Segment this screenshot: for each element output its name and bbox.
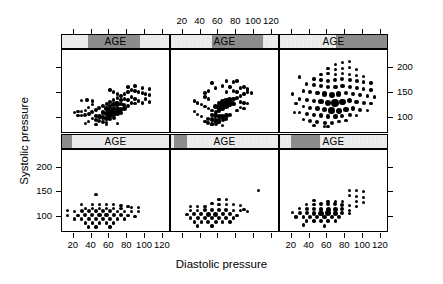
data-point <box>196 205 199 208</box>
data-point <box>196 101 199 104</box>
data-point <box>326 114 331 119</box>
data-point <box>210 224 213 227</box>
data-point <box>203 91 206 94</box>
data-point <box>148 93 151 96</box>
data-point <box>119 94 122 97</box>
data-point <box>232 89 235 92</box>
data-point <box>312 113 316 117</box>
data-point <box>298 75 301 78</box>
tick-mark <box>388 117 393 118</box>
data-point <box>315 91 320 96</box>
data-point <box>355 79 359 83</box>
data-point <box>94 123 97 126</box>
data-point <box>91 203 94 206</box>
data-point <box>119 111 123 115</box>
data-point <box>328 107 335 114</box>
data-point <box>83 213 87 217</box>
data-point <box>116 92 119 95</box>
data-point <box>333 78 337 82</box>
data-point <box>369 102 372 105</box>
data-point <box>214 86 217 89</box>
panel-top-left <box>61 49 170 133</box>
data-point <box>105 221 108 224</box>
data-point <box>225 90 228 93</box>
tick-mark <box>388 67 393 68</box>
data-point <box>348 113 352 117</box>
data-point <box>91 207 94 210</box>
data-point <box>302 223 305 226</box>
data-point <box>326 85 331 90</box>
data-point <box>305 98 309 102</box>
data-point <box>326 67 329 70</box>
data-point <box>302 89 305 92</box>
data-point <box>108 88 111 91</box>
y-axis-title: Systolic pressure <box>18 61 30 221</box>
data-point <box>355 189 358 192</box>
data-point <box>119 207 122 210</box>
data-point <box>221 84 224 87</box>
data-point <box>66 214 69 217</box>
data-point <box>130 210 133 213</box>
data-point <box>80 99 83 102</box>
data-point <box>358 108 362 112</box>
data-point <box>298 111 301 114</box>
data-point <box>366 109 369 112</box>
tick-mark <box>162 233 163 238</box>
data-point <box>358 93 362 97</box>
data-point <box>348 85 352 89</box>
tick-mark <box>253 233 254 238</box>
data-point <box>319 113 324 118</box>
data-point <box>246 102 249 105</box>
data-point <box>94 217 98 221</box>
data-point <box>319 202 323 206</box>
data-point <box>315 106 320 111</box>
strip-panel-top-right: AGE <box>279 34 388 49</box>
data-point <box>76 110 79 113</box>
data-point <box>94 193 97 196</box>
data-point <box>116 217 119 220</box>
data-point <box>355 200 358 203</box>
data-point <box>336 108 342 114</box>
data-point <box>112 221 115 224</box>
data-point <box>116 210 119 213</box>
data-point <box>98 203 101 206</box>
data-point <box>326 72 329 75</box>
data-point <box>369 81 372 84</box>
data-point <box>207 97 210 100</box>
data-point <box>228 113 232 117</box>
data-point <box>123 217 126 220</box>
data-point <box>305 82 308 85</box>
data-point <box>210 81 213 84</box>
data-point <box>294 102 297 105</box>
data-point <box>122 106 127 111</box>
data-point <box>130 206 133 209</box>
data-point <box>348 78 352 82</box>
data-point <box>293 111 296 114</box>
tick-mark <box>380 233 381 238</box>
tick-label: 120 <box>360 240 400 250</box>
data-point <box>217 203 220 206</box>
data-point <box>348 60 351 63</box>
data-point <box>242 107 245 110</box>
strip-panel-top-middle: AGE <box>170 34 279 49</box>
data-point <box>246 90 249 93</box>
data-point <box>319 78 322 81</box>
data-point <box>193 220 196 223</box>
data-point <box>333 202 337 206</box>
data-point <box>308 119 312 123</box>
data-point <box>235 214 238 217</box>
data-point <box>76 214 79 217</box>
data-point <box>137 90 140 93</box>
data-point <box>312 83 316 87</box>
data-point <box>239 204 242 207</box>
data-point <box>246 87 249 90</box>
data-point <box>369 88 372 91</box>
data-point <box>319 84 323 88</box>
data-point <box>355 114 358 117</box>
data-point <box>217 208 221 212</box>
data-point <box>333 114 338 119</box>
data-point <box>334 73 337 76</box>
data-point <box>355 205 358 208</box>
data-point <box>133 84 136 87</box>
data-point <box>137 210 140 213</box>
